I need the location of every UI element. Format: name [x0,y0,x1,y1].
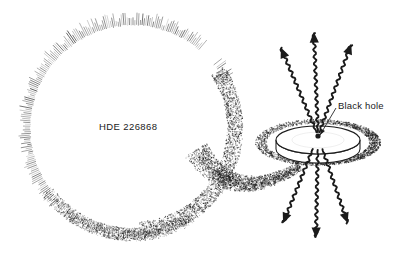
star-label: HDE 226868 [99,121,157,132]
diagram-canvas [0,0,403,258]
accretion-stream [42,66,301,241]
black-hole-label: Black hole [338,100,384,111]
black-hole-point [315,133,320,138]
cygnus-x1-diagram: HDE 226868 Black hole [0,0,403,258]
